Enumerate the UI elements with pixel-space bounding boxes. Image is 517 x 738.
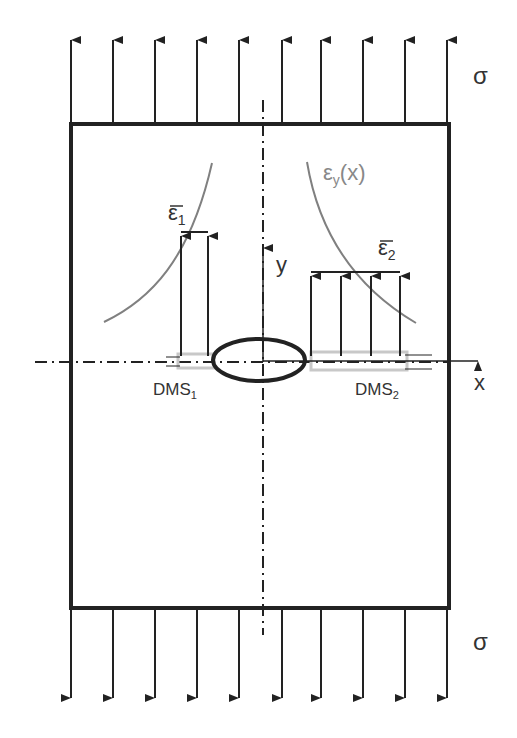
eps2-arrows: [311, 272, 400, 356]
sigma-bottom-label: σ: [473, 628, 488, 656]
eps2-label: ε2: [378, 235, 396, 263]
elliptical-hole: [213, 339, 305, 381]
eps1-label: ε1: [168, 200, 186, 228]
eps1-arrows: [181, 232, 208, 356]
sigma-top-label: σ: [473, 62, 488, 90]
strain-curve-left: [104, 163, 212, 322]
top-stress-arrows: [71, 40, 447, 124]
plate: [71, 124, 449, 608]
strain-curve-label: εy(x): [323, 160, 365, 188]
bottom-stress-arrows: [71, 608, 447, 698]
dms2-label: DMS2: [355, 380, 399, 401]
dms1-label: DMS1: [153, 380, 197, 401]
y-axis-label: y: [276, 252, 287, 278]
x-axis-label: x: [474, 370, 485, 396]
plate-diagram: [0, 0, 517, 738]
